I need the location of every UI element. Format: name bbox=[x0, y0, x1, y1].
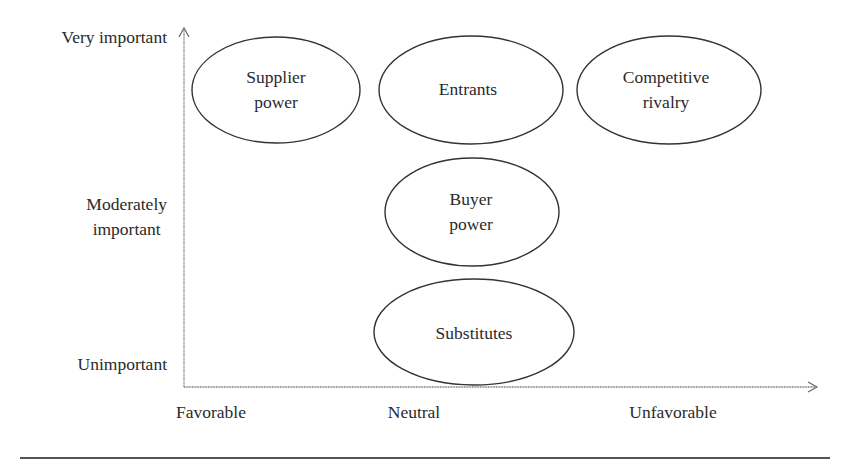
y-label-very-important: Very important bbox=[62, 25, 167, 49]
node-substitutes: Substitutes bbox=[436, 321, 513, 346]
node-supplier-power: Supplier power bbox=[246, 65, 305, 115]
y-label-moderately-important: Moderately important bbox=[86, 192, 167, 242]
node-entrants: Entrants bbox=[439, 77, 497, 102]
x-label-neutral: Neutral bbox=[388, 400, 440, 424]
node-buyer-power: Buyer power bbox=[449, 187, 493, 237]
node-competitive-rivalry: Competitive rivalry bbox=[623, 65, 710, 115]
x-label-unfavorable: Unfavorable bbox=[629, 400, 716, 424]
x-label-favorable: Favorable bbox=[176, 400, 246, 424]
x-axis-arrow-icon bbox=[808, 382, 817, 392]
y-label-unimportant: Unimportant bbox=[78, 352, 167, 376]
